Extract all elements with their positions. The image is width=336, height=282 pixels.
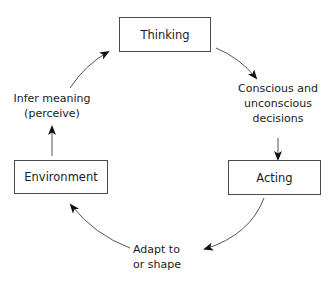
arrow-infer-to-thinking <box>70 52 108 88</box>
infer-line-1: Infer meaning <box>10 91 94 106</box>
node-environment-label: Environment <box>24 170 97 184</box>
edge-label-infer: Infer meaning (perceive) <box>10 91 94 121</box>
edge-label-decisions: Conscious and unconscious decisions <box>228 81 328 126</box>
adapt-line-2: or shape <box>133 257 203 272</box>
adapt-line-1: Adapt to <box>133 242 203 257</box>
decisions-line-1: Conscious and <box>228 81 328 96</box>
decisions-line-3: decisions <box>228 111 328 126</box>
decisions-line-2: unconscious <box>228 96 328 111</box>
arrow-acting-to-adapt <box>205 198 264 249</box>
node-acting-label: Acting <box>256 171 292 185</box>
node-thinking: Thinking <box>119 17 211 52</box>
cycle-diagram: Thinking Acting Environment Conscious an… <box>0 0 336 282</box>
infer-line-2: (perceive) <box>10 106 94 121</box>
node-environment: Environment <box>14 160 108 194</box>
arrow-thinking-to-decisions <box>216 48 256 78</box>
node-thinking-label: Thinking <box>140 28 189 42</box>
node-acting: Acting <box>228 160 321 195</box>
arrow-adapt-to-environment <box>71 205 130 248</box>
edge-label-adapt: Adapt to or shape <box>133 242 203 272</box>
